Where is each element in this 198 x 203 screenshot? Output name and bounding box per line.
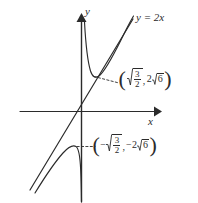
sqrt-x-upper: 3 2 [127,68,143,90]
y-sign-lower: − [126,140,132,150]
radical-sign-icon [152,73,157,85]
radicand-y-upper: 6 [157,73,164,85]
radical-sign-icon [106,134,112,156]
open-paren-lower: ( [93,136,100,154]
point-label-lower-maximum: ( − 3 2 , − 2 [92,134,157,156]
point-label-upper-minimum: ( 3 2 , 2 [118,68,172,90]
close-paren-upper: ) [164,70,171,88]
fraction-denominator: 2 [134,79,141,89]
radicand-y-lower: 6 [142,139,149,151]
fraction-denominator: 2 [113,145,120,155]
graph-figure: y x y = 2x ( 3 2 , [0,0,198,203]
fraction-three-halves-upper: 3 2 [134,70,141,90]
sqrt-x-lower: 3 2 [106,134,122,156]
radical-sign-icon [137,139,142,151]
fraction-three-halves-lower: 3 2 [113,136,120,156]
close-paren-lower: ) [150,136,157,154]
sqrt-y-lower: 6 [137,139,149,151]
radical-sign-icon [127,68,133,90]
radicand-x-upper: 3 2 [133,68,143,90]
math-row-lower: ( − 3 2 , − 2 [92,134,157,156]
x-axis-label: x [148,116,153,127]
x-sign-lower: − [100,140,106,150]
comma-lower: , [122,142,125,152]
sqrt-y-upper: 6 [152,73,164,85]
plot-canvas [0,0,198,203]
open-paren-upper: ( [119,70,126,88]
y-axis-label: y [85,6,90,17]
fraction-numerator: 3 [113,136,120,145]
asymptote-equation-label: y = 2x [136,12,164,23]
fraction-numerator: 3 [134,70,141,79]
radicand-x-lower: 3 2 [112,134,122,156]
math-row-upper: ( 3 2 , 2 [118,68,172,90]
curve-lower-branch [35,146,82,201]
comma-upper: , [143,76,146,86]
x-axis-arrowhead [154,107,162,117]
